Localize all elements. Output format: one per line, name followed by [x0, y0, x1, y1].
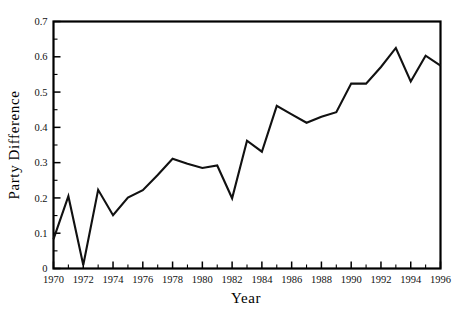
y-tick-label: 0.5	[34, 87, 47, 98]
x-tick-label: 1980	[192, 274, 213, 285]
y-tick-label: 0	[42, 263, 47, 274]
x-tick-label: 1984	[251, 274, 273, 285]
data-series-group	[54, 48, 441, 265]
x-tick-label: 1978	[162, 274, 183, 285]
y-axis-title: Party Difference	[6, 91, 22, 200]
x-tick-label: 1994	[400, 274, 422, 285]
x-tick-label: 1996	[430, 274, 451, 285]
series-line	[54, 48, 441, 265]
y-axis-tick-labels: 00.10.20.30.40.50.60.7	[34, 16, 48, 274]
x-axis-title: Year	[231, 290, 261, 306]
x-tick-label: 1990	[341, 274, 362, 285]
x-tick-label: 1972	[73, 274, 94, 285]
plot-frame	[54, 22, 441, 269]
x-tick-label: 1986	[281, 274, 302, 285]
y-tick-label: 0.4	[34, 122, 48, 133]
chart-figure: 00.10.20.30.40.50.60.7 19701972197419761…	[0, 0, 454, 315]
x-tick-label: 1970	[43, 274, 64, 285]
x-tick-label: 1976	[132, 274, 153, 285]
x-tick-label: 1982	[222, 274, 243, 285]
line-chart: 00.10.20.30.40.50.60.7 19701972197419761…	[0, 0, 454, 315]
x-tick-label: 1992	[370, 274, 391, 285]
y-tick-label: 0.1	[34, 228, 47, 239]
y-tick-label: 0.7	[34, 16, 47, 27]
x-tick-label: 1988	[311, 274, 332, 285]
y-tick-label: 0.2	[34, 193, 47, 204]
y-tick-label: 0.6	[34, 51, 47, 62]
y-tick-label: 0.3	[34, 157, 47, 168]
x-axis-tick-labels: 1970197219741976197819801982198419861988…	[43, 274, 451, 285]
x-tick-label: 1974	[103, 274, 125, 285]
